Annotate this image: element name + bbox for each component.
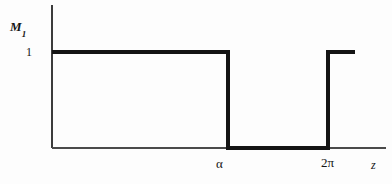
x-tick-label-two-pi: 2π bbox=[321, 156, 334, 169]
y-axis-title: M1 bbox=[10, 20, 26, 37]
y-tick-label-one: 1 bbox=[26, 46, 32, 58]
x-tick-label-alpha: α bbox=[216, 157, 223, 170]
y-axis-title-base: M bbox=[10, 19, 22, 34]
x-axis-title: z bbox=[371, 159, 376, 171]
step-curve-m1 bbox=[52, 52, 355, 148]
y-axis-title-subscript: 1 bbox=[22, 29, 27, 39]
figure-step-function: M1 1 α 2π z bbox=[0, 0, 392, 184]
